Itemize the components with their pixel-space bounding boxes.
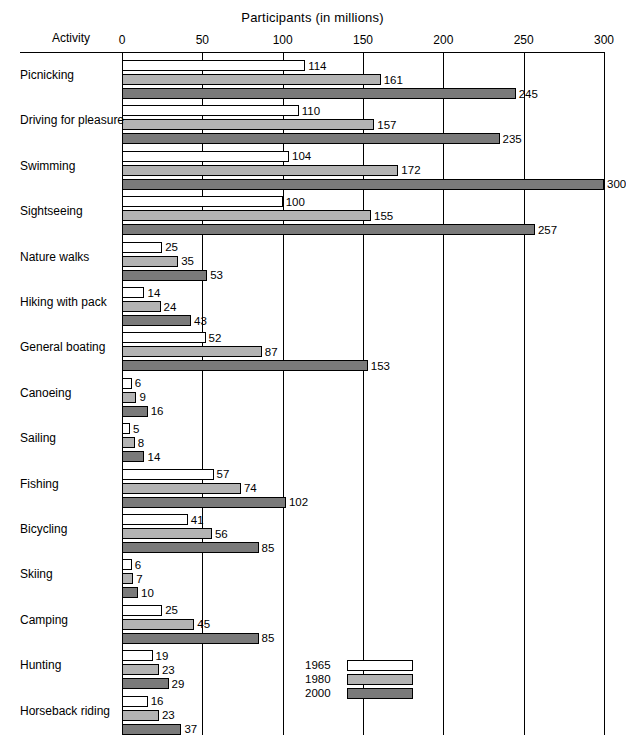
bar-group: 110157235 bbox=[122, 105, 604, 147]
legend-swatch bbox=[347, 674, 413, 685]
bar-value-label: 172 bbox=[401, 165, 420, 176]
bar-value-label: 25 bbox=[165, 242, 178, 253]
bar-value-label: 8 bbox=[138, 438, 144, 449]
bar-1980 bbox=[122, 346, 262, 357]
x-tick-label: 100 bbox=[273, 33, 293, 47]
bar-1980 bbox=[122, 74, 381, 85]
bar-1980 bbox=[122, 392, 136, 403]
bar-1965 bbox=[122, 105, 299, 116]
bar-value-label: 10 bbox=[141, 588, 154, 599]
bar-value-label: 57 bbox=[217, 469, 230, 480]
bar-2000 bbox=[122, 497, 286, 508]
category-label: Driving for pleasure bbox=[20, 113, 120, 127]
bar-value-label: 6 bbox=[135, 378, 141, 389]
bar-1965 bbox=[122, 696, 148, 707]
bar-2000 bbox=[122, 270, 207, 281]
bar-1980 bbox=[122, 710, 159, 721]
category-label: Hiking with pack bbox=[20, 295, 120, 309]
bar-value-label: 5 bbox=[133, 424, 139, 435]
bar-group: 254585 bbox=[122, 605, 604, 647]
bar-value-label: 114 bbox=[308, 61, 326, 72]
bar-1965 bbox=[122, 242, 162, 253]
bar-value-label: 56 bbox=[215, 529, 228, 540]
x-axis-line bbox=[20, 52, 604, 53]
bar-value-label: 153 bbox=[371, 361, 390, 372]
bar-value-label: 16 bbox=[151, 696, 164, 707]
bar-value-label: 16 bbox=[151, 406, 164, 417]
bar-1980 bbox=[122, 619, 194, 630]
gridline-300 bbox=[604, 52, 605, 735]
x-tick-label: 200 bbox=[433, 33, 453, 47]
bar-1980 bbox=[122, 573, 133, 584]
category-label: Bicycling bbox=[20, 522, 120, 536]
category-label: Swimming bbox=[20, 159, 120, 173]
bar-2000 bbox=[122, 360, 368, 371]
x-tick-label: 250 bbox=[514, 33, 534, 47]
bar-value-label: 37 bbox=[184, 724, 197, 735]
bar-1965 bbox=[122, 151, 289, 162]
bar-value-label: 23 bbox=[162, 665, 175, 676]
category-label: Sightseeing bbox=[20, 204, 120, 218]
bar-1965 bbox=[122, 605, 162, 616]
category-label: Horseback riding bbox=[20, 704, 120, 718]
bar-value-label: 14 bbox=[147, 288, 160, 299]
bar-1980 bbox=[122, 210, 371, 221]
bar-value-label: 85 bbox=[262, 633, 275, 644]
bar-group: 162337 bbox=[122, 696, 604, 738]
category-label: Picnicking bbox=[20, 68, 120, 82]
bar-value-label: 7 bbox=[136, 574, 142, 585]
bar-value-label: 245 bbox=[519, 89, 538, 100]
bar-group: 5814 bbox=[122, 423, 604, 465]
bar-1980 bbox=[122, 119, 374, 130]
bar-2000 bbox=[122, 633, 259, 644]
bar-2000 bbox=[122, 88, 516, 99]
x-tick-label: 300 bbox=[594, 33, 614, 47]
bar-group: 5287153 bbox=[122, 332, 604, 374]
bar-value-label: 19 bbox=[156, 651, 169, 662]
bar-2000 bbox=[122, 724, 181, 735]
bar-1965 bbox=[122, 423, 130, 434]
bar-value-label: 52 bbox=[209, 333, 222, 344]
bar-2000 bbox=[122, 224, 535, 235]
bar-value-label: 104 bbox=[292, 151, 311, 162]
bar-value-label: 24 bbox=[164, 302, 177, 313]
category-label: Skiing bbox=[20, 567, 120, 581]
bar-value-label: 43 bbox=[194, 316, 207, 327]
bar-group: 6710 bbox=[122, 559, 604, 601]
bar-1965 bbox=[122, 196, 283, 207]
bar-value-label: 257 bbox=[538, 225, 557, 236]
bar-1980 bbox=[122, 437, 135, 448]
bar-1965 bbox=[122, 514, 188, 525]
bar-value-label: 85 bbox=[262, 543, 275, 554]
x-tick-label: 0 bbox=[119, 33, 126, 47]
bar-1965 bbox=[122, 559, 132, 570]
bar-1965 bbox=[122, 469, 214, 480]
bar-1980 bbox=[122, 664, 159, 675]
bar-group: 6916 bbox=[122, 378, 604, 420]
bar-2000 bbox=[122, 179, 604, 190]
bar-value-label: 41 bbox=[191, 515, 204, 526]
bar-2000 bbox=[122, 542, 259, 553]
bar-value-label: 235 bbox=[503, 134, 522, 145]
x-tick-label: 50 bbox=[196, 33, 209, 47]
bar-group: 5774102 bbox=[122, 469, 604, 511]
bar-group: 104172300 bbox=[122, 151, 604, 193]
bar-value-label: 157 bbox=[377, 120, 396, 131]
bar-value-label: 53 bbox=[210, 270, 223, 281]
legend-label: 1965 bbox=[305, 659, 331, 671]
category-label: Fishing bbox=[20, 477, 120, 491]
category-label: Sailing bbox=[20, 431, 120, 445]
bar-2000 bbox=[122, 406, 148, 417]
bar-1965 bbox=[122, 287, 144, 298]
legend-swatch bbox=[347, 660, 413, 671]
bar-1965 bbox=[122, 332, 206, 343]
bar-group: 192329 bbox=[122, 650, 604, 692]
category-label: Canoeing bbox=[20, 386, 120, 400]
bar-1980 bbox=[122, 301, 161, 312]
bar-group: 253553 bbox=[122, 242, 604, 284]
bar-1980 bbox=[122, 165, 398, 176]
y-axis-label: Activity bbox=[52, 31, 90, 45]
bar-group: 415685 bbox=[122, 514, 604, 556]
bar-group: 100155257 bbox=[122, 196, 604, 238]
bar-2000 bbox=[122, 587, 138, 598]
